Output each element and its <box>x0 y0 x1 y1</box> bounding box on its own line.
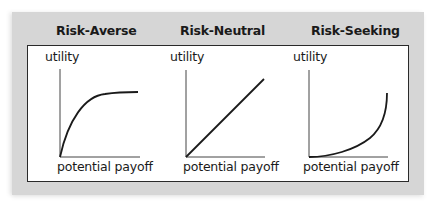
x-axis-label-risk-seeking: potential payoff <box>303 159 399 174</box>
x-axis-label-risk-averse: potential payoff <box>57 159 153 174</box>
header-risk-seeking: Risk-Seeking <box>311 23 400 38</box>
header-risk-averse: Risk-Averse <box>56 23 137 38</box>
y-axis-label-risk-neutral: utility <box>170 49 204 64</box>
x-axis-label-risk-neutral: potential payoff <box>183 159 279 174</box>
y-axis-label-risk-averse: utility <box>45 49 79 64</box>
y-axis-label-risk-seeking: utility <box>293 49 327 64</box>
header-risk-neutral: Risk-Neutral <box>180 23 265 38</box>
